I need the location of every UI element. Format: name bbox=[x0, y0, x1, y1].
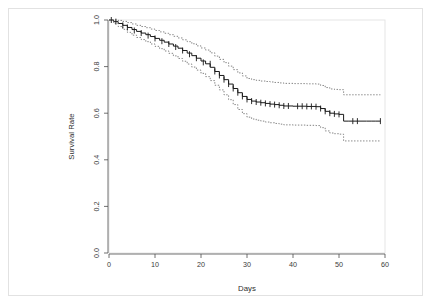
x-axis-tick-label: 40 bbox=[289, 260, 297, 269]
x-axis-tick-label: 50 bbox=[335, 260, 343, 269]
censor-marks-group bbox=[111, 17, 380, 124]
survival-curve bbox=[109, 20, 380, 121]
survival-curve bbox=[109, 20, 380, 95]
y-axis-tick-label: 1.0 bbox=[92, 15, 101, 25]
x-axis-tick-label: 20 bbox=[197, 260, 205, 269]
survival-curve bbox=[109, 20, 380, 141]
x-axis-tick-label: 60 bbox=[381, 260, 389, 269]
y-axis-tick-label: 0.2 bbox=[92, 201, 101, 211]
x-axis-tick-label: 0 bbox=[107, 260, 111, 269]
y-axis-tick-label: 0.0 bbox=[92, 248, 101, 258]
survival-plot: 0.00.20.40.60.81.0Survival Rate010203040… bbox=[0, 0, 433, 307]
y-axis-title: Survival Rate bbox=[67, 113, 76, 159]
x-axis-title: Days bbox=[238, 284, 256, 293]
y-axis-tick-label: 0.8 bbox=[92, 62, 101, 72]
x-axis-tick-label: 30 bbox=[243, 260, 251, 269]
y-axis-tick-label: 0.6 bbox=[92, 108, 101, 118]
x-axis-tick-label: 10 bbox=[151, 260, 159, 269]
y-axis-tick-label: 0.4 bbox=[92, 155, 101, 165]
figure-root: 0.00.20.40.60.81.0Survival Rate010203040… bbox=[0, 0, 433, 307]
